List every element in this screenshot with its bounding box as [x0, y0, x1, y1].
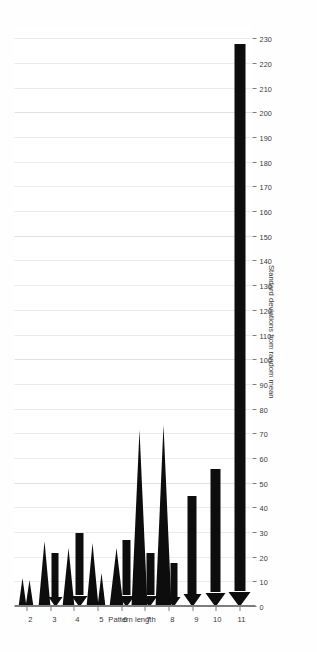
gridline [14, 63, 251, 64]
category-tick-label: 9 [185, 615, 198, 624]
gridline [14, 285, 251, 286]
value-tickmark [252, 606, 256, 607]
value-tickmark [252, 137, 256, 138]
gridline [14, 38, 251, 39]
value-tickmark [252, 359, 256, 360]
data-arrow-shaft [122, 540, 130, 595]
category-tick-label: 5 [90, 615, 103, 624]
gridline [14, 359, 251, 360]
data-arrow-shaft [210, 469, 220, 593]
value-tick-label: 30 [259, 528, 267, 537]
data-spike [155, 425, 171, 607]
chart-page: 0102030405060708090100110120130140150160… [0, 0, 317, 652]
value-tick-label: 50 [259, 479, 267, 488]
value-tick-label: 190 [259, 134, 271, 143]
data-arrow-shaft [75, 533, 83, 595]
data-spike [25, 580, 33, 607]
value-tickmark [252, 507, 256, 508]
category-tick-label: 11 [232, 615, 245, 624]
rotated-figure-container: 0102030405060708090100110120130140150160… [0, 0, 317, 652]
value-tick-label: 220 [259, 60, 271, 69]
gridline [14, 211, 251, 212]
value-tickmark [252, 483, 256, 484]
category-tickmark [144, 607, 145, 611]
value-tick-label: 10 [259, 578, 267, 587]
category-tickmark [26, 607, 27, 611]
data-arrow-shaft [170, 563, 177, 597]
category-tick-label: 2 [19, 615, 32, 624]
value-tick-label: 80 [259, 405, 267, 414]
value-tick-label: 200 [259, 109, 271, 118]
data-spike [131, 430, 147, 607]
figure: 0102030405060708090100110120130140150160… [0, 0, 317, 652]
value-tickmark [252, 310, 256, 311]
gridline [14, 162, 251, 163]
gridline [14, 335, 251, 336]
value-tickmark [252, 260, 256, 261]
value-tick-label: 150 [259, 232, 271, 241]
category-tick-label: 3 [43, 615, 56, 624]
gridline [14, 409, 251, 410]
category-tickmark [50, 607, 51, 611]
value-tickmark [252, 532, 256, 533]
category-axis-title: Pattern length [107, 615, 154, 624]
value-tick-label: 170 [259, 183, 271, 192]
value-tickmark [252, 409, 256, 410]
gridline [14, 260, 251, 261]
value-tickmark [252, 581, 256, 582]
data-spike [86, 543, 98, 607]
value-tickmark [252, 88, 256, 89]
value-tick-label: 230 [259, 35, 271, 44]
category-tickmark [192, 607, 193, 611]
data-arrow-shaft [187, 496, 196, 594]
data-arrow-shaft [234, 44, 245, 591]
value-tickmark [252, 433, 256, 434]
value-tickmark [252, 236, 256, 237]
value-tickmark [252, 557, 256, 558]
category-tickmark [215, 607, 216, 611]
category-tick-label: 10 [208, 615, 221, 624]
value-tickmark [252, 458, 256, 459]
gridline [14, 186, 251, 187]
value-tickmark [252, 186, 256, 187]
value-tickmark [252, 63, 256, 64]
value-tick-label: 60 [259, 454, 267, 463]
category-tickmark [168, 607, 169, 611]
gridline [14, 137, 251, 138]
value-tickmark [252, 112, 256, 113]
value-tick-label: 210 [259, 84, 271, 93]
gridline [14, 310, 251, 311]
value-tick-label: 160 [259, 208, 271, 217]
gridline [14, 112, 251, 113]
data-spike [97, 573, 105, 607]
gridline [14, 88, 251, 89]
value-tick-label: 0 [259, 603, 263, 612]
value-tickmark [252, 384, 256, 385]
value-tick-label: 40 [259, 504, 267, 513]
value-tick-label: 70 [259, 430, 267, 439]
value-tickmark [252, 38, 256, 39]
category-tickmark [73, 607, 74, 611]
gridline [14, 236, 251, 237]
data-spike [18, 578, 26, 607]
category-tickmark [239, 607, 240, 611]
data-arrow-shaft [51, 553, 58, 597]
gridline [14, 384, 251, 385]
plot-area [14, 27, 251, 607]
value-tickmark [252, 285, 256, 286]
category-tick-label: 4 [66, 615, 79, 624]
category-tickmark [97, 607, 98, 611]
value-tick-label: 180 [259, 158, 271, 167]
value-tickmark [252, 335, 256, 336]
data-arrow-shaft [146, 553, 154, 596]
value-tick-label: 20 [259, 553, 267, 562]
category-tickmark [121, 607, 122, 611]
value-tickmark [252, 211, 256, 212]
value-axis-title: Standard deviations from random mean [266, 265, 275, 398]
value-tickmark [252, 162, 256, 163]
category-tick-label: 8 [161, 615, 174, 624]
